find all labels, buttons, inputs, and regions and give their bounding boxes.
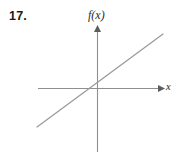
linear-function-graph-svg [0,0,177,160]
y-axis-arrowhead-icon [94,25,101,32]
figure-container: 17. f(x) x [0,0,177,160]
x-axis-label: x [166,81,171,93]
x-axis-arrowhead-icon [158,85,165,92]
y-axis-label: f(x) [88,8,105,22]
function-line-group [37,34,163,127]
coordinate-axes [38,25,165,152]
function-line [37,34,163,127]
